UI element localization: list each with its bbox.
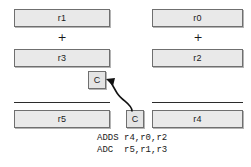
- register-label: r4: [193, 114, 201, 124]
- asm-line-adds: ADDS r4,r0,r2: [97, 133, 167, 144]
- sum-rule-high-word: [14, 102, 110, 103]
- carry-label: C: [132, 114, 139, 124]
- register-label: r3: [58, 53, 66, 63]
- adds-adc-diagram: r1 r0 r3 r2 r5 r4 + + C C ADDS r4,r0,r2 …: [0, 0, 251, 167]
- carry-out-box: C: [126, 110, 144, 128]
- register-box-r5: r5: [14, 110, 110, 128]
- carry-arrow-path: [110, 81, 132, 111]
- carry-in-box: C: [88, 71, 106, 89]
- register-box-r2: r2: [152, 49, 243, 67]
- register-box-r4: r4: [152, 110, 243, 128]
- carry-arrow-head: [106, 78, 115, 86]
- plus-sign-high-word: +: [56, 32, 68, 43]
- register-box-r1: r1: [14, 9, 110, 27]
- carry-label: C: [94, 75, 101, 85]
- register-box-r0: r0: [152, 9, 243, 27]
- plus-sign-low-word: +: [192, 32, 204, 43]
- register-label: r0: [193, 13, 201, 23]
- register-label: r2: [193, 53, 201, 63]
- asm-line-adc: ADC r5,r1,r3: [97, 145, 167, 156]
- register-label: r5: [58, 114, 66, 124]
- sum-rule-low-word: [152, 102, 243, 103]
- register-box-r3: r3: [14, 49, 110, 67]
- register-label: r1: [58, 13, 66, 23]
